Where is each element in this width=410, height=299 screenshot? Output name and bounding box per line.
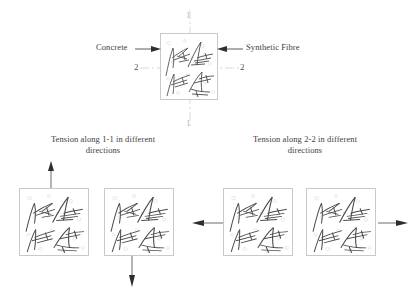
- central-specimen-cracks: [161, 34, 218, 100]
- callout-label-synthetic-fibre: Synthetic Fibre: [246, 42, 300, 52]
- specimen-1-1-a: [19, 188, 89, 256]
- section-label-2-right: 2: [240, 62, 245, 72]
- section-label-2-left: 2: [134, 62, 139, 72]
- specimen-2-2-b: [306, 188, 376, 256]
- arrow-right: [378, 218, 408, 228]
- caption-group-1-1-line1: Tension along 1-1 in different: [18, 134, 188, 144]
- specimen-2-2-a-cracks: [224, 189, 293, 256]
- specimen-2-2-b-cracks: [307, 189, 376, 256]
- specimen-2-2-a: [223, 188, 293, 256]
- callout-leader-concrete: [135, 44, 163, 54]
- callout-label-concrete: Concrete: [96, 42, 127, 52]
- arrow-left: [192, 218, 224, 228]
- arrow-up: [46, 161, 56, 189]
- section-label-1-top: 1: [186, 10, 191, 20]
- caption-group-2-2-line2: directions: [216, 145, 394, 155]
- central-specimen: [160, 33, 218, 100]
- caption-group-2-2-line1: Tension along 2-2 in different: [216, 134, 394, 144]
- caption-group-1-1-line2: directions: [18, 145, 188, 155]
- specimen-1-1-b-cracks: [105, 189, 174, 256]
- arrow-down: [127, 256, 137, 288]
- section-label-1-bottom: 1: [186, 118, 191, 128]
- callout-leader-synthetic-fibre: [215, 44, 243, 54]
- specimen-1-1-b: [104, 188, 174, 256]
- figure-canvas: 1 1 2 2: [0, 0, 410, 299]
- specimen-1-1-a-cracks: [20, 189, 89, 256]
